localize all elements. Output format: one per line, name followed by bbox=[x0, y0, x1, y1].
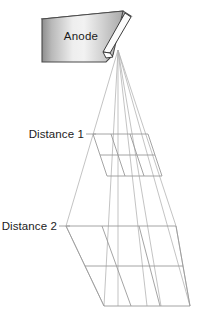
beam-ray-group bbox=[66, 50, 190, 306]
beam-ray-left-outer bbox=[104, 50, 118, 306]
beam-edge-right bbox=[118, 50, 176, 226]
distance-1-label: Distance 1 bbox=[29, 128, 84, 140]
beam-ray-right-inner bbox=[118, 50, 161, 306]
anode-beam-divergence-diagram: Anode Distance 1 Distance 2 bbox=[0, 0, 198, 311]
beam-ray-right-outer bbox=[118, 50, 190, 306]
beam-ray-center bbox=[118, 50, 147, 306]
anode-label: Anode bbox=[64, 30, 98, 42]
distance-2-plane bbox=[66, 226, 190, 306]
distance-2-label: Distance 2 bbox=[2, 220, 57, 232]
diagram-canvas: Anode Distance 1 Distance 2 bbox=[0, 0, 198, 311]
